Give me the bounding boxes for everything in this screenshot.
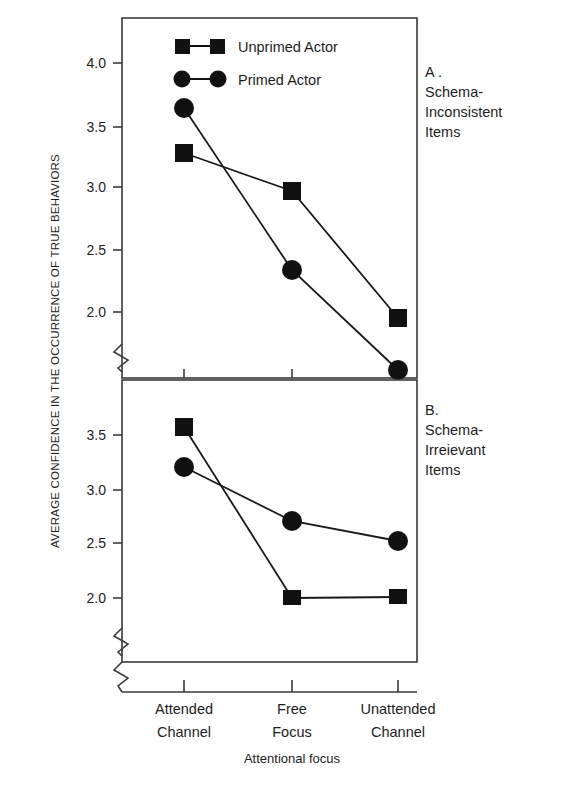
legend-label-primed: Primed Actor: [238, 72, 321, 88]
x-tick-label-attended-line2: Channel: [157, 724, 211, 740]
x-axis-title: Attentional focus: [244, 751, 341, 766]
legend-marker-circle-icon: [210, 71, 227, 88]
x-tick-label-free-line1: Free: [277, 701, 307, 717]
panel-b-point-primed-1: [282, 511, 302, 531]
panel-a-ytick-2: 3.0: [87, 179, 107, 195]
panel-b-point-primed-2: [388, 531, 408, 551]
x-tick-label-unattended-line2: Channel: [371, 724, 425, 740]
panel-a-point-unprimed-2: [389, 309, 407, 327]
x-tick-label-free-line2: Focus: [272, 724, 312, 740]
panel-b-ytick-0: 3.5: [87, 427, 107, 443]
legend-marker-square-icon: [175, 39, 190, 54]
panel-a-point-primed-1: [282, 260, 302, 280]
panel-a-ytick-0: 4.0: [87, 55, 107, 71]
panel-b-ytick-3: 2.0: [87, 590, 107, 606]
panel-b-ytick-1: 3.0: [87, 482, 107, 498]
legend-marker-circle-icon: [174, 71, 191, 88]
x-tick-label-attended-line1: Attended: [155, 701, 213, 717]
y-axis-title: AVERAGE CONFIDENCE IN THE OCCURRENCE OF …: [49, 141, 61, 561]
legend-label-unprimed: Unprimed Actor: [238, 39, 338, 55]
panel-a: 4.0 3.5 3.0 2.5 2.0 Unprimed Actor Prime…: [87, 18, 417, 380]
panel-a-ytick-4: 2.0: [87, 304, 107, 320]
x-axis: Attended Channel Free Focus Unattended C…: [114, 662, 435, 766]
panel-a-caption: A . Schema- Inconsistent Items: [425, 62, 502, 142]
panel-b-point-unprimed-0: [175, 418, 193, 436]
figure-container: AVERAGE CONFIDENCE IN THE OCCURRENCE OF …: [0, 0, 575, 787]
panel-b-y-ticks: [113, 435, 122, 598]
panel-b: 3.5 3.0 2.5 2.0: [87, 380, 417, 662]
x-tick-label-unattended-line1: Unattended: [361, 701, 436, 717]
panel-a-y-ticks: [113, 63, 122, 312]
panel-a-point-unprimed-0: [175, 144, 193, 162]
panel-b-caption: B. Schema- Irreievant Items: [425, 400, 485, 480]
panel-a-point-unprimed-1: [283, 182, 301, 200]
panel-b-point-primed-0: [174, 457, 194, 477]
panel-b-frame: [122, 380, 417, 662]
panel-a-ytick-1: 3.5: [87, 119, 107, 135]
x-axis-ticks: [184, 680, 398, 692]
panel-a-ytick-3: 2.5: [87, 242, 107, 258]
panel-a-point-primed-0: [174, 98, 194, 118]
panel-b-point-unprimed-2: [389, 589, 407, 604]
panel-b-ytick-2: 2.5: [87, 535, 107, 551]
panel-b-point-unprimed-1: [283, 590, 301, 605]
legend-marker-square-icon: [210, 39, 225, 54]
panel-a-point-primed-2: [388, 360, 408, 380]
x-axis-break: [114, 662, 128, 692]
